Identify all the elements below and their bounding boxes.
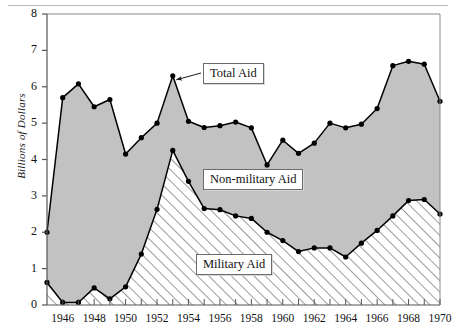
y-tick-label: 8 — [21, 6, 37, 21]
data-point — [359, 122, 364, 127]
data-point — [280, 238, 285, 243]
data-point — [343, 254, 348, 259]
annotation-non-military-aid: Non-military Aid — [203, 169, 303, 190]
data-point — [359, 241, 364, 246]
data-point — [280, 138, 285, 143]
data-point — [139, 135, 144, 140]
data-point — [343, 125, 348, 130]
annotation-leader-line — [176, 73, 201, 80]
chart-figure: Billions of Dollars 012345678 1946194819… — [0, 0, 453, 335]
data-point — [390, 63, 395, 68]
data-point — [123, 151, 128, 156]
x-tick-label: 1970 — [420, 312, 453, 324]
data-point — [375, 228, 380, 233]
data-point — [312, 141, 317, 146]
data-point — [123, 284, 128, 289]
y-tick-label: 3 — [21, 188, 37, 203]
data-point — [264, 230, 269, 235]
data-point — [202, 206, 207, 211]
data-point — [217, 207, 222, 212]
data-point — [154, 121, 159, 126]
data-point — [139, 251, 144, 256]
data-point — [390, 213, 395, 218]
y-axis-title: Billions of Dollars — [15, 81, 27, 191]
y-tick-label: 6 — [21, 79, 37, 94]
y-tick-label: 7 — [21, 42, 37, 57]
data-point — [296, 249, 301, 254]
data-point — [422, 197, 427, 202]
data-point — [406, 198, 411, 203]
data-point — [375, 106, 380, 111]
annotation-total-aid: Total Aid — [203, 63, 264, 84]
data-point — [217, 123, 222, 128]
data-point — [170, 73, 175, 78]
data-point — [76, 81, 81, 86]
data-point — [92, 285, 97, 290]
data-point — [249, 216, 254, 221]
data-point — [327, 245, 332, 250]
data-point — [296, 151, 301, 156]
total-aid-leader — [176, 73, 201, 80]
y-tick-label: 4 — [21, 152, 37, 167]
y-axis-ticks — [42, 14, 47, 305]
data-point — [186, 179, 191, 184]
y-tick-label: 1 — [21, 261, 37, 276]
data-point — [264, 162, 269, 167]
data-point — [312, 245, 317, 250]
data-point — [202, 125, 207, 130]
data-point — [233, 213, 238, 218]
area-chart-canvas — [0, 0, 453, 335]
data-point — [170, 148, 175, 153]
data-point — [186, 119, 191, 124]
data-point — [406, 59, 411, 64]
y-tick-label: 0 — [21, 297, 37, 312]
data-point — [107, 97, 112, 102]
data-point — [233, 119, 238, 124]
data-point — [249, 125, 254, 130]
data-point — [60, 95, 65, 100]
data-point — [422, 62, 427, 67]
data-point — [154, 207, 159, 212]
data-point — [92, 104, 97, 109]
y-tick-label: 5 — [21, 115, 37, 130]
y-tick-label: 2 — [21, 224, 37, 239]
annotation-military-aid: Military Aid — [196, 254, 272, 275]
data-point — [327, 121, 332, 126]
